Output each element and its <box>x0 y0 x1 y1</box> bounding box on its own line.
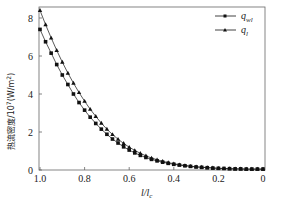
square-marker <box>100 127 104 131</box>
triangle-marker <box>55 48 59 52</box>
square-marker <box>77 101 81 105</box>
x-tick-label: 0.8 <box>78 173 91 184</box>
square-marker <box>122 145 126 149</box>
square-marker <box>94 122 98 126</box>
plot-frame <box>39 7 265 170</box>
x-tick-label: 0.6 <box>123 173 136 184</box>
legend-label-ql: ql <box>241 24 248 38</box>
square-marker <box>66 83 70 87</box>
x-tick-label: 0.4 <box>168 173 181 184</box>
legend-square-marker <box>224 15 227 18</box>
triangle-marker <box>82 99 86 103</box>
triangle-marker <box>43 22 47 26</box>
square-marker <box>61 73 65 77</box>
triangle-marker <box>49 36 53 40</box>
triangle-marker <box>71 81 75 85</box>
y-tick-label: 2 <box>28 127 33 138</box>
x-tick-label: 0.2 <box>212 173 225 184</box>
square-marker <box>44 40 48 44</box>
x-axis-label: l/lc <box>141 187 153 200</box>
square-marker <box>38 28 42 32</box>
square-marker <box>88 115 92 119</box>
triangle-marker <box>66 71 70 75</box>
square-marker <box>72 92 76 96</box>
x-tick-label: 0 <box>261 173 266 184</box>
triangle-marker <box>38 8 42 12</box>
square-marker <box>116 141 120 145</box>
y-tick-label: 0 <box>28 165 33 176</box>
y-axis: 02468 <box>28 13 42 176</box>
square-marker <box>105 132 109 136</box>
square-marker <box>55 63 59 67</box>
legend-label-qwl: qwl <box>241 10 253 24</box>
y-tick-label: 8 <box>28 13 33 24</box>
y-axis-label: 热流密度/107(W/m2) <box>5 73 16 150</box>
triangle-marker <box>77 90 81 94</box>
triangle-marker <box>138 151 142 155</box>
chart: 02468 1.00.80.60.40.20 qwl ql l/lc 热流密度/… <box>0 0 281 204</box>
square-marker <box>111 137 115 141</box>
series-q_wl <box>38 28 265 171</box>
series-q_l <box>38 8 265 171</box>
y-tick-label: 4 <box>28 89 33 100</box>
series-layer <box>38 8 265 171</box>
y-tick-label: 6 <box>28 51 33 62</box>
legend: qwl ql <box>215 10 253 38</box>
square-marker <box>49 51 53 55</box>
triangle-marker <box>60 60 64 64</box>
x-tick-label: 1.0 <box>34 173 47 184</box>
triangle-marker <box>127 145 131 149</box>
triangle-marker <box>121 141 125 145</box>
square-marker <box>83 108 87 112</box>
triangle-marker <box>133 148 137 152</box>
